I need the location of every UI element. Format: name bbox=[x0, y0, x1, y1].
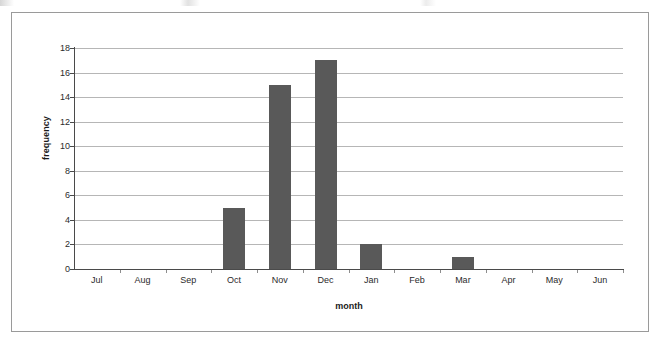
x-axis-tick-mark bbox=[577, 270, 578, 273]
y-axis-tick-label: 0 bbox=[48, 265, 70, 274]
x-axis-tick-mark bbox=[211, 270, 212, 273]
x-axis-tick-label: Feb bbox=[394, 275, 440, 286]
x-axis-tick-labels: JulAugSepOctNovDecJanFebMarAprMayJun bbox=[74, 275, 624, 289]
x-axis-tick-mark bbox=[486, 270, 487, 273]
bar bbox=[360, 244, 382, 269]
y-axis-tick-label: 12 bbox=[48, 118, 70, 127]
x-axis-tick-mark bbox=[303, 270, 304, 273]
x-axis-tick-mark bbox=[623, 270, 624, 273]
bar-chart: 024681012141618 frequency JulAugSepOctNo… bbox=[12, 13, 648, 331]
x-axis-tick-label: Dec bbox=[303, 275, 349, 286]
scan-artifact-strip bbox=[0, 0, 664, 6]
y-axis-tick-label: 8 bbox=[48, 167, 70, 176]
x-axis-tick-mark bbox=[532, 270, 533, 273]
gridline bbox=[74, 122, 623, 123]
x-axis-tick-mark bbox=[440, 270, 441, 273]
x-axis-tick-marks bbox=[74, 270, 624, 273]
gridline bbox=[74, 220, 623, 221]
x-axis-tick-label: Jun bbox=[577, 275, 623, 286]
y-axis-tick-label: 16 bbox=[48, 69, 70, 78]
y-axis-tick-label: 2 bbox=[48, 240, 70, 249]
y-axis-tick-label: 18 bbox=[48, 44, 70, 53]
x-axis-tick-label: Oct bbox=[211, 275, 257, 286]
bar bbox=[223, 208, 245, 269]
x-axis-tick-label: May bbox=[531, 275, 577, 286]
x-axis-title: month bbox=[74, 301, 624, 311]
x-axis-tick-mark bbox=[120, 270, 121, 273]
x-axis-tick-label: Jan bbox=[348, 275, 394, 286]
gridline bbox=[74, 195, 623, 196]
chart-figure-frame: 024681012141618 frequency JulAugSepOctNo… bbox=[11, 12, 649, 332]
bar bbox=[452, 257, 474, 269]
plot-area bbox=[74, 48, 623, 269]
y-axis-line bbox=[74, 47, 75, 270]
gridline bbox=[74, 171, 623, 172]
x-axis-tick-mark bbox=[394, 270, 395, 273]
x-axis-tick-mark bbox=[257, 270, 258, 273]
bar bbox=[315, 60, 337, 269]
x-axis-tick-label: Mar bbox=[440, 275, 486, 286]
x-axis-tick-label: Aug bbox=[120, 275, 166, 286]
x-axis-tick-label: Nov bbox=[257, 275, 303, 286]
gridline bbox=[74, 97, 623, 98]
y-axis-tick-label: 10 bbox=[48, 142, 70, 151]
bar bbox=[269, 85, 291, 269]
x-axis-tick-mark bbox=[349, 270, 350, 273]
gridline bbox=[74, 244, 623, 245]
y-axis-title: frequency bbox=[41, 98, 51, 178]
x-axis-tick-label: Sep bbox=[165, 275, 211, 286]
x-axis-tick-label: Jul bbox=[74, 275, 120, 286]
gridline bbox=[74, 48, 623, 49]
x-axis-tick-label: Apr bbox=[486, 275, 532, 286]
gridline bbox=[74, 73, 623, 74]
y-axis-tick-label: 14 bbox=[48, 93, 70, 102]
y-axis-tick-label: 4 bbox=[48, 216, 70, 225]
x-axis-tick-mark bbox=[166, 270, 167, 273]
gridline bbox=[74, 146, 623, 147]
y-axis-tick-label: 6 bbox=[48, 191, 70, 200]
